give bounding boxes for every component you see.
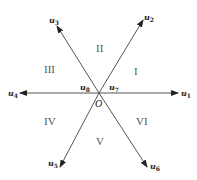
sector-II: II (96, 42, 104, 54)
vector-u5-line (60, 93, 99, 167)
label-u5: u5 (48, 158, 58, 169)
label-u1: u1 (181, 88, 191, 99)
vector-u6-line (99, 93, 147, 167)
sector-I: I (134, 65, 138, 77)
label-u6: u6 (150, 161, 160, 172)
label-u4: u4 (8, 88, 18, 99)
sector-IV: IV (44, 115, 56, 127)
sector-V: V (96, 135, 104, 147)
space-vector-diagram: u1 u2 u3 u4 u5 u6 u8 u7 O I II III IV V … (0, 0, 197, 180)
label-u7: u7 (109, 82, 119, 93)
sector-VI: VI (136, 115, 148, 127)
label-u3: u3 (49, 15, 59, 26)
vector-u3-line (57, 26, 99, 93)
origin-label: O (95, 98, 102, 109)
label-u8: u8 (80, 82, 90, 93)
label-u2: u2 (144, 12, 154, 23)
sector-III: III (44, 63, 55, 75)
vector-u2-line (99, 20, 143, 93)
